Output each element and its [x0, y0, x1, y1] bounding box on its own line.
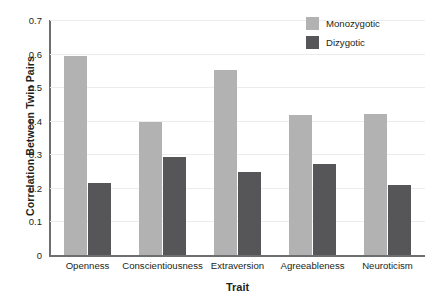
legend-swatch-icon — [306, 17, 319, 30]
x-axis-tick-label: Conscientiousness — [122, 260, 203, 271]
plot-area: 0.70.60.50.40.30.20.10 OpennessConscient… — [50, 20, 425, 255]
legend-label: Monozygotic — [326, 18, 380, 29]
legend: MonozygoticDizygotic — [306, 17, 380, 55]
y-axis-tick-label: 0 — [6, 250, 42, 261]
bar-monozygotic-neuroticism — [364, 114, 387, 255]
bar-dizygotic-neuroticism — [388, 185, 411, 255]
x-axis-tick-label: Neuroticism — [362, 260, 413, 271]
y-axis-tick-label: 0.6 — [6, 48, 42, 59]
bar-group — [139, 20, 186, 255]
bar-dizygotic-extraversion — [238, 172, 261, 255]
legend-swatch-icon — [306, 36, 319, 49]
x-axis-tick-label: Agreeableness — [280, 260, 344, 271]
bar-group — [364, 20, 411, 255]
bar-monozygotic-agreeableness — [289, 115, 312, 255]
y-axis-tick-label: 0.4 — [6, 115, 42, 126]
legend-item: Dizygotic — [306, 36, 380, 49]
bar-group — [64, 20, 111, 255]
bar-monozygotic-extraversion — [214, 70, 237, 255]
y-axis-tick-label: 0.5 — [6, 82, 42, 93]
bar-group — [214, 20, 261, 255]
legend-label: Dizygotic — [326, 37, 365, 48]
x-axis-title: Trait — [50, 281, 425, 293]
y-axis-tick-label: 0.7 — [6, 15, 42, 26]
y-axis-tick-label: 0.1 — [6, 216, 42, 227]
bar-dizygotic-conscientiousness — [163, 157, 186, 255]
bar-dizygotic-agreeableness — [313, 164, 336, 255]
legend-item: Monozygotic — [306, 17, 380, 30]
x-axis-tick-label: Openness — [66, 260, 110, 271]
bar-monozygotic-conscientiousness — [139, 122, 162, 255]
x-axis-line — [49, 255, 425, 257]
bar-monozygotic-openness — [64, 56, 87, 255]
x-axis-tick-label: Extraversion — [211, 260, 264, 271]
bar-chart: Correlation Between Twin Pairs 0.70.60.5… — [0, 0, 429, 300]
bar-group — [289, 20, 336, 255]
y-axis-tick-label: 0.2 — [6, 182, 42, 193]
y-axis-tick-label: 0.3 — [6, 149, 42, 160]
bar-dizygotic-openness — [88, 183, 111, 255]
